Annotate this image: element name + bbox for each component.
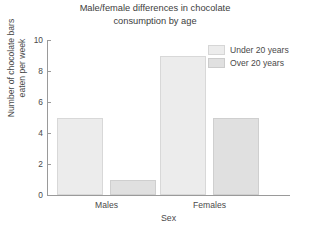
bar (57, 118, 103, 196)
y-tick-mark (48, 71, 51, 72)
y-tick-label: 4 (38, 128, 43, 138)
x-axis-label: Sex (47, 213, 290, 223)
bar (110, 180, 156, 196)
y-tick-mark (48, 195, 51, 196)
y-tick-label: 8 (38, 66, 43, 76)
y-tick-mark (48, 133, 51, 134)
legend-swatch-icon (208, 45, 225, 55)
y-tick-mark (48, 164, 51, 165)
y-tick-label: 6 (38, 97, 43, 107)
legend-swatch-icon (208, 58, 225, 68)
legend-label: Over 20 years (230, 58, 284, 68)
x-category-label: Females (193, 200, 226, 210)
legend-item-over-20: Over 20 years (208, 58, 289, 68)
y-tick-mark (48, 40, 51, 41)
bar (160, 56, 206, 196)
legend-label: Under 20 years (230, 45, 289, 55)
legend: Under 20 years Over 20 years (208, 45, 289, 68)
bar (213, 118, 259, 196)
y-axis-label: Number of chocolate bars eaten per week (6, 8, 28, 128)
y-tick-mark (48, 102, 51, 103)
y-tick-label: 10 (34, 35, 43, 45)
x-axis-line (47, 195, 290, 196)
x-category-label: Males (95, 200, 118, 210)
chart-title: Male/female differences in chocolate con… (30, 2, 280, 27)
y-axis-line (47, 40, 48, 196)
y-tick-label: 0 (38, 190, 43, 200)
legend-item-under-20: Under 20 years (208, 45, 289, 55)
bar-chart: Male/female differences in chocolate con… (0, 0, 310, 235)
y-tick-label: 2 (38, 159, 43, 169)
